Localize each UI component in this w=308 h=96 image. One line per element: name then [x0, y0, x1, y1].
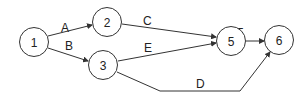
edge-e: E	[118, 41, 216, 61]
node-2: 2	[93, 8, 122, 37]
edge-label-b: B	[65, 39, 73, 53]
edge-label-c: C	[143, 14, 152, 28]
edge-label-a: A	[61, 21, 69, 35]
node-label-6: 6	[276, 34, 283, 48]
edge-label-d: D	[196, 77, 205, 91]
node-6: 6	[265, 26, 294, 55]
edge-a: A	[48, 21, 92, 36]
node-1: 1	[20, 28, 49, 57]
node-label-2: 2	[104, 16, 111, 30]
edge-b: B	[48, 39, 88, 61]
node-5: 5	[217, 27, 246, 56]
node-label-3: 3	[100, 59, 107, 73]
network-diagram: A B C E D F 1 2 3 5 6	[0, 0, 308, 96]
node-3: 3	[89, 51, 118, 80]
node-label-1: 1	[31, 36, 38, 50]
edge-c: C	[122, 14, 216, 37]
edge-label-e: E	[144, 41, 152, 55]
node-label-5: 5	[228, 35, 235, 49]
edge-d: D	[117, 52, 270, 91]
